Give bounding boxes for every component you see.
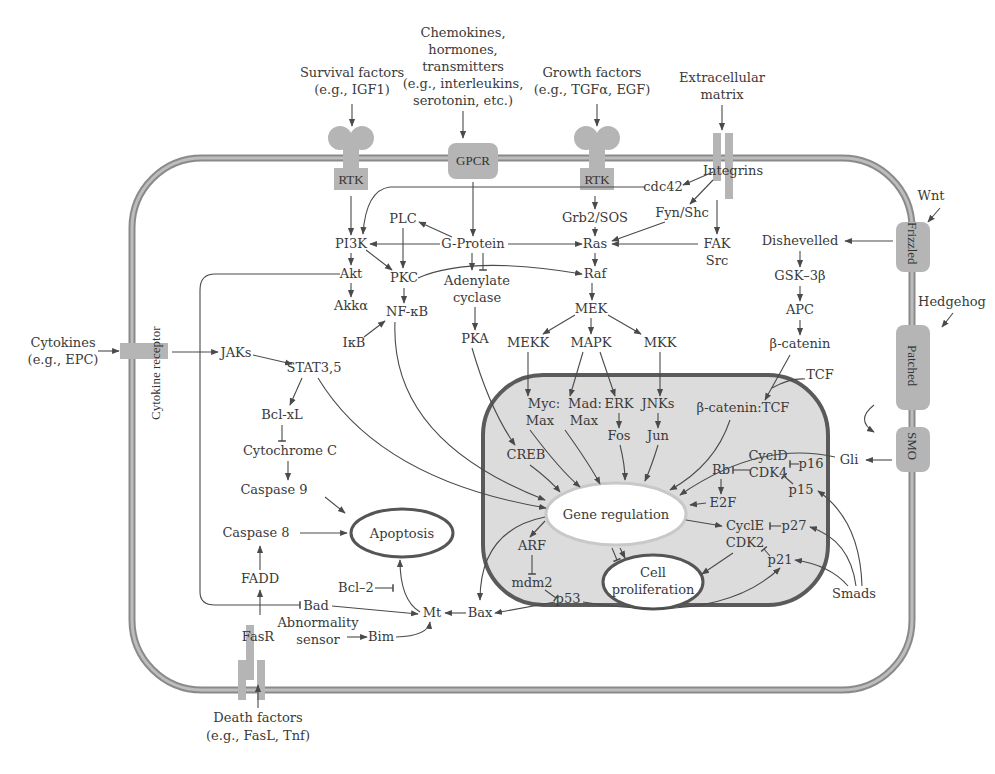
survival-factors-label: Survival factors (e.g., IGF1): [300, 65, 404, 97]
svg-text:PKA: PKA: [461, 331, 489, 346]
svg-text:Smads: Smads: [832, 586, 876, 601]
svg-text:CDK4: CDK4: [749, 465, 787, 480]
svg-text:FasR: FasR: [242, 629, 276, 644]
svg-text:cdc42: cdc42: [643, 179, 682, 194]
svg-text:PKC: PKC: [390, 270, 418, 285]
svg-text:MKK: MKK: [644, 335, 677, 350]
svg-text:Raf: Raf: [584, 266, 608, 281]
svg-text:p16: p16: [799, 456, 824, 471]
svg-text:RTK: RTK: [338, 172, 364, 187]
chemokines-label: Chemokines, hormones, transmitters (e.g.…: [403, 25, 524, 108]
svg-text:serotonin, etc.): serotonin, etc.): [413, 93, 513, 108]
svg-text:CDK2: CDK2: [726, 535, 764, 550]
svg-text:Integrins: Integrins: [703, 163, 763, 178]
svg-text:IκB: IκB: [343, 335, 366, 350]
svg-text:Mad:: Mad:: [568, 396, 602, 411]
svg-text:Bax: Bax: [468, 605, 493, 620]
svg-text:Caspase 8: Caspase 8: [222, 525, 289, 540]
svg-text:Akkα: Akkα: [333, 298, 368, 313]
patched-receptor: Patched: [896, 325, 930, 410]
svg-text:(e.g., IGF1): (e.g., IGF1): [314, 82, 390, 97]
svg-text:Dishevelled: Dishevelled: [762, 233, 839, 248]
svg-text:(e.g., TGFα, EGF): (e.g., TGFα, EGF): [534, 82, 651, 97]
svg-text:p27: p27: [782, 518, 807, 533]
extracellular-matrix-label: Extracellular matrix: [679, 70, 766, 102]
svg-text:MAPK: MAPK: [570, 335, 611, 350]
svg-text:G-Protein: G-Protein: [441, 236, 505, 251]
svg-text:p15: p15: [789, 482, 814, 497]
svg-text:(e.g., FasL, Tnf): (e.g., FasL, Tnf): [206, 728, 310, 743]
svg-text:Extracellular: Extracellular: [679, 70, 766, 85]
svg-text:Abnormality: Abnormality: [276, 615, 359, 630]
svg-text:Caspase 9: Caspase 9: [240, 482, 307, 497]
svg-text:p21: p21: [768, 552, 793, 567]
svg-text:Mt: Mt: [423, 605, 442, 620]
svg-text:Max: Max: [526, 413, 555, 428]
svg-text:PLC: PLC: [389, 211, 416, 226]
svg-text:(e.g., interleukins,: (e.g., interleukins,: [403, 76, 524, 91]
svg-text:Cell: Cell: [640, 565, 666, 580]
svg-text:FADD: FADD: [241, 571, 279, 586]
svg-text:Jun: Jun: [645, 428, 670, 443]
svg-text:APC: APC: [785, 302, 814, 317]
svg-text:GSK–3β: GSK–3β: [774, 268, 825, 283]
svg-text:STAT3,5: STAT3,5: [287, 360, 342, 375]
svg-text:Myc:: Myc:: [528, 396, 560, 411]
svg-text:Gli: Gli: [840, 452, 859, 467]
svg-text:Apoptosis: Apoptosis: [369, 526, 434, 541]
cytokines-label: Cytokines (e.g., EPC): [28, 335, 99, 367]
svg-text:(e.g., EPC): (e.g., EPC): [28, 352, 99, 367]
svg-text:Survival factors: Survival factors: [300, 65, 404, 80]
svg-text:CREB: CREB: [507, 447, 546, 462]
svg-text:transmitters: transmitters: [422, 59, 504, 74]
svg-text:SMO: SMO: [905, 432, 920, 460]
svg-text:GPCR: GPCR: [456, 153, 490, 168]
svg-text:Gene regulation: Gene regulation: [563, 507, 670, 522]
svg-text:Growth factors: Growth factors: [542, 65, 641, 80]
svg-text:Cytokine receptor: Cytokine receptor: [148, 326, 163, 420]
growth-factors-label: Growth factors (e.g., TGFα, EGF): [534, 65, 651, 97]
svg-text:TCF: TCF: [806, 367, 834, 382]
svg-text:Patched: Patched: [905, 345, 920, 387]
svg-text:PI3K: PI3K: [335, 236, 367, 251]
svg-text:MEK: MEK: [575, 301, 608, 316]
svg-text:Bad: Bad: [303, 598, 329, 613]
svg-text:Fyn/Shc: Fyn/Shc: [655, 205, 709, 220]
svg-text:Fos: Fos: [608, 428, 631, 443]
svg-text:sensor: sensor: [296, 632, 340, 647]
svg-text:mdm2: mdm2: [511, 575, 552, 590]
svg-text:Frizzled: Frizzled: [905, 222, 920, 265]
cytokine-receptor: Cytokine receptor: [120, 326, 168, 420]
cell-proliferation-node: Cell proliferation: [603, 555, 703, 609]
svg-text:NF-κB: NF-κB: [386, 304, 428, 319]
svg-text:MEKK: MEKK: [507, 335, 550, 350]
svg-text:ARF: ARF: [517, 538, 546, 553]
svg-text:matrix: matrix: [700, 87, 744, 102]
svg-text:Ras: Ras: [583, 236, 608, 251]
svg-text:hormones,: hormones,: [428, 42, 497, 57]
svg-text:JAKs: JAKs: [219, 345, 252, 360]
svg-text:JNKs: JNKs: [640, 396, 675, 411]
svg-text:Bcl–2: Bcl–2: [338, 580, 374, 595]
svg-text:CyclE: CyclE: [726, 518, 764, 533]
svg-text:E2F: E2F: [710, 495, 737, 510]
cell-signaling-diagram: RTK GPCR RTK Frizzled Patched SMO Cytoki…: [0, 0, 995, 774]
apoptosis-node: Apoptosis: [351, 509, 453, 557]
svg-text:proliferation: proliferation: [612, 582, 695, 597]
svg-text:FAK: FAK: [704, 236, 731, 251]
svg-text:Cytochrome C: Cytochrome C: [243, 443, 337, 458]
svg-text:Src: Src: [706, 253, 728, 268]
svg-text:ERK: ERK: [605, 396, 634, 411]
svg-text:p53: p53: [556, 591, 581, 606]
svg-text:Adenylate: Adenylate: [443, 273, 510, 288]
hedgehog-label: Hedgehog: [918, 294, 986, 309]
svg-text:Akt: Akt: [339, 266, 363, 281]
wnt-label: Wnt: [918, 188, 946, 203]
svg-text:Bcl-xL: Bcl-xL: [261, 407, 303, 422]
smo-receptor: SMO: [896, 427, 930, 472]
gpcr-receptor: GPCR: [448, 143, 498, 179]
svg-text:Cytokines: Cytokines: [30, 335, 95, 350]
svg-text:cyclase: cyclase: [453, 290, 501, 305]
svg-text:β-catenin: β-catenin: [770, 336, 831, 351]
svg-text:Max: Max: [570, 413, 599, 428]
